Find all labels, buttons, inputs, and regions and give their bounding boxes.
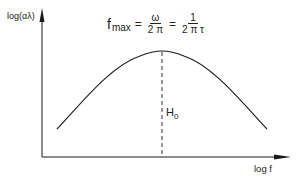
x-axis-arrow-icon — [274, 155, 291, 160]
fraction-2-denominator: 2 π τ — [180, 24, 206, 35]
fraction-1-numerator: ω — [150, 12, 162, 24]
formula-fraction-2: 1 2 π τ — [180, 12, 206, 35]
fraction-1-denominator: 2 π — [146, 24, 165, 35]
formula-lhs: f — [107, 16, 111, 32]
peak-label-main: H — [166, 106, 174, 118]
formula-fraction-1: ω 2 π — [146, 12, 165, 35]
peak-label-sub: 0 — [174, 112, 178, 121]
formula-equals-2: = — [169, 17, 176, 31]
y-axis-arrow-icon — [40, 8, 45, 22]
fmax-formula: f max = ω 2 π = 1 2 π τ — [107, 12, 206, 35]
y-axis-label: log(αλ) — [7, 11, 35, 21]
peak-label: H0 — [166, 106, 178, 121]
x-axis-label: log f — [254, 163, 272, 174]
formula-lhs-sub: max — [112, 22, 131, 33]
fraction-2-numerator: 1 — [188, 12, 198, 24]
formula-equals-1: = — [135, 17, 142, 31]
